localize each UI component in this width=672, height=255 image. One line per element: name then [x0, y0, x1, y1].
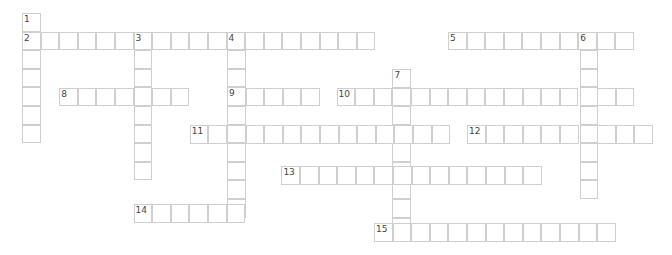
- crossword-cell[interactable]: [449, 166, 468, 185]
- crossword-cell[interactable]: [616, 88, 635, 107]
- crossword-cell[interactable]: [597, 125, 616, 144]
- crossword-cell[interactable]: [522, 32, 541, 51]
- crossword-cell[interactable]: [264, 32, 283, 51]
- crossword-cell[interactable]: [78, 88, 97, 107]
- crossword-cell[interactable]: [208, 32, 227, 51]
- crossword-cell[interactable]: [486, 125, 505, 144]
- crossword-cell[interactable]: [504, 125, 523, 144]
- crossword-cell[interactable]: 1: [22, 13, 41, 32]
- crossword-cell[interactable]: [41, 32, 60, 51]
- crossword-cell[interactable]: [560, 88, 579, 107]
- crossword-cell[interactable]: [597, 88, 616, 107]
- crossword-cell[interactable]: [227, 125, 246, 144]
- crossword-cell[interactable]: [283, 88, 302, 107]
- crossword-cell[interactable]: [541, 223, 560, 242]
- crossword-cell[interactable]: [467, 32, 486, 51]
- crossword-cell[interactable]: [300, 166, 319, 185]
- crossword-cell[interactable]: [394, 125, 413, 144]
- crossword-cell[interactable]: [208, 204, 227, 223]
- crossword-cell[interactable]: [560, 32, 579, 51]
- crossword-cell[interactable]: [22, 125, 41, 144]
- crossword-cell[interactable]: [227, 50, 246, 69]
- crossword-cell[interactable]: [412, 166, 431, 185]
- crossword-cell[interactable]: [134, 162, 153, 181]
- crossword-cell[interactable]: [301, 125, 320, 144]
- crossword-cell[interactable]: [301, 88, 320, 107]
- crossword-cell[interactable]: [485, 32, 504, 51]
- crossword-cell[interactable]: [580, 69, 599, 88]
- crossword-cell[interactable]: 7: [392, 69, 411, 88]
- crossword-cell[interactable]: [134, 125, 153, 144]
- crossword-cell[interactable]: [486, 223, 505, 242]
- crossword-cell[interactable]: [356, 166, 375, 185]
- crossword-cell[interactable]: [283, 125, 302, 144]
- crossword-cell[interactable]: 4: [227, 32, 246, 51]
- crossword-cell[interactable]: [485, 88, 504, 107]
- crossword-cell[interactable]: [615, 32, 634, 51]
- crossword-cell[interactable]: [616, 125, 635, 144]
- crossword-cell[interactable]: [227, 69, 246, 88]
- crossword-cell[interactable]: [22, 50, 41, 69]
- crossword-cell[interactable]: [392, 106, 411, 125]
- crossword-cell[interactable]: [541, 125, 560, 144]
- crossword-cell[interactable]: [337, 166, 356, 185]
- crossword-cell[interactable]: [115, 88, 134, 107]
- crossword-cell[interactable]: [580, 125, 599, 144]
- crossword-cell[interactable]: [392, 88, 411, 107]
- crossword-cell[interactable]: [579, 223, 598, 242]
- crossword-cell[interactable]: [339, 125, 358, 144]
- crossword-cell[interactable]: [448, 223, 467, 242]
- crossword-cell[interactable]: [171, 204, 190, 223]
- crossword-cell[interactable]: [580, 180, 599, 199]
- crossword-cell[interactable]: [560, 223, 579, 242]
- crossword-cell[interactable]: [134, 106, 153, 125]
- crossword-cell[interactable]: [523, 125, 542, 144]
- crossword-cell[interactable]: [580, 50, 599, 69]
- crossword-cell[interactable]: [448, 88, 467, 107]
- crossword-cell[interactable]: [96, 88, 115, 107]
- crossword-cell[interactable]: [541, 88, 560, 107]
- crossword-cell[interactable]: [78, 32, 97, 51]
- crossword-cell[interactable]: [134, 69, 153, 88]
- crossword-cell[interactable]: [597, 32, 616, 51]
- crossword-cell[interactable]: [597, 223, 616, 242]
- crossword-cell[interactable]: [134, 87, 153, 106]
- crossword-cell[interactable]: [504, 223, 523, 242]
- crossword-cell[interactable]: [523, 223, 542, 242]
- crossword-cell[interactable]: [227, 143, 246, 162]
- crossword-cell[interactable]: [320, 125, 339, 144]
- crossword-cell[interactable]: 12: [467, 125, 486, 144]
- crossword-cell[interactable]: [227, 106, 246, 125]
- crossword-cell[interactable]: [523, 88, 542, 107]
- crossword-cell[interactable]: [393, 166, 412, 185]
- crossword-cell[interactable]: 6: [578, 32, 597, 51]
- crossword-cell[interactable]: 10: [337, 88, 356, 107]
- crossword-cell[interactable]: [430, 223, 449, 242]
- crossword-cell[interactable]: [467, 223, 486, 242]
- crossword-cell[interactable]: [134, 50, 153, 69]
- crossword-cell[interactable]: [282, 32, 301, 51]
- crossword-cell[interactable]: [246, 88, 265, 107]
- crossword-cell[interactable]: 14: [134, 204, 153, 223]
- crossword-cell[interactable]: 5: [448, 32, 467, 51]
- crossword-cell[interactable]: [264, 125, 283, 144]
- crossword-cell[interactable]: [413, 125, 432, 144]
- crossword-cell[interactable]: [171, 32, 190, 51]
- crossword-cell[interactable]: [189, 204, 208, 223]
- crossword-cell[interactable]: [376, 125, 395, 144]
- crossword-cell[interactable]: [580, 87, 599, 106]
- crossword-cell[interactable]: [523, 166, 542, 185]
- crossword-cell[interactable]: [411, 88, 430, 107]
- crossword-cell[interactable]: [374, 166, 393, 185]
- crossword-cell[interactable]: [430, 166, 449, 185]
- crossword-cell[interactable]: [393, 223, 412, 242]
- crossword-cell[interactable]: [505, 166, 524, 185]
- crossword-cell[interactable]: [319, 166, 338, 185]
- crossword-cell[interactable]: [245, 32, 264, 51]
- crossword-cell[interactable]: [392, 199, 411, 218]
- crossword-cell[interactable]: 2: [22, 32, 41, 51]
- crossword-cell[interactable]: [411, 223, 430, 242]
- crossword-cell[interactable]: [59, 32, 78, 51]
- crossword-cell[interactable]: [374, 88, 393, 107]
- crossword-cell[interactable]: [22, 87, 41, 106]
